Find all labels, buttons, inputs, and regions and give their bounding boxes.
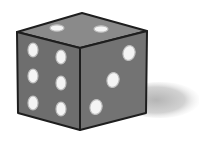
pip	[56, 102, 66, 116]
pip	[28, 69, 38, 83]
die-left-face	[17, 32, 80, 130]
pip	[56, 76, 66, 90]
pip	[28, 43, 38, 57]
die-image	[0, 0, 199, 143]
pip	[94, 26, 108, 32]
pip	[56, 50, 66, 64]
pip	[28, 96, 38, 110]
die-illustration	[0, 0, 199, 143]
pip	[50, 25, 64, 31]
